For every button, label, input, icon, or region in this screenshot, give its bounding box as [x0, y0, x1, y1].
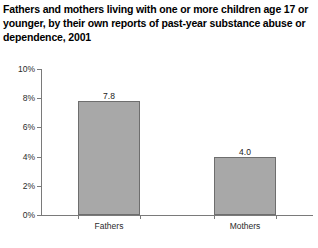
x-axis-tick: [276, 215, 277, 219]
y-axis-tick: [37, 186, 41, 187]
x-axis-category-label: Mothers: [230, 221, 261, 231]
plot-area: 0%2%4%6%8%10% 7.84.0 FathersMothers: [41, 69, 313, 215]
y-axis-tick: [37, 127, 41, 128]
y-axis-tick-label: 8%: [23, 93, 35, 103]
y-axis-line: [41, 69, 42, 215]
x-axis-category-label: Fathers: [95, 221, 124, 231]
bar-chart-figure: Fathers and mothers living with one or m…: [0, 0, 318, 248]
y-axis-tick: [37, 215, 41, 216]
y-axis-tick-label: 4%: [23, 152, 35, 162]
bar-value-label: 4.0: [239, 147, 251, 157]
chart-title: Fathers and mothers living with one or m…: [3, 2, 315, 45]
y-axis-tick: [37, 157, 41, 158]
y-axis-tick: [37, 98, 41, 99]
y-axis-tick-label: 0%: [23, 210, 35, 220]
y-axis-tick-label: 10%: [18, 64, 35, 74]
bar: 4.0: [214, 157, 276, 215]
bar-value-label: 7.8: [103, 91, 115, 101]
bar: 7.8: [78, 101, 140, 215]
x-axis-line: [41, 215, 313, 216]
y-axis-tick-label: 2%: [23, 181, 35, 191]
x-axis-tick: [214, 215, 215, 219]
y-axis-tick: [37, 69, 41, 70]
y-axis-tick-label: 6%: [23, 122, 35, 132]
x-axis-tick: [78, 215, 79, 219]
x-axis-tick: [140, 215, 141, 219]
